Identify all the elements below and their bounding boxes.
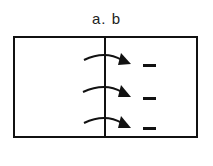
curved-arrow-3 (84, 116, 131, 128)
minus-sign-2 (143, 97, 156, 100)
minus-sign-1 (143, 64, 156, 67)
curved-arrow-2 (83, 85, 131, 97)
curved-arrow-1 (84, 53, 131, 65)
minus-sign-3 (143, 127, 156, 130)
diagram-canvas (0, 0, 213, 166)
